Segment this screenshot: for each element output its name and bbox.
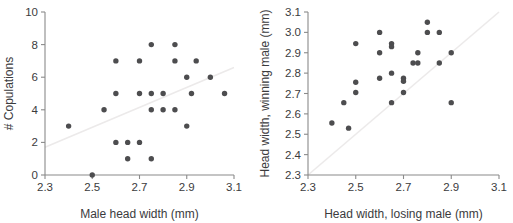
trend-line [45,67,234,147]
x-tick-label: 2.9 [179,181,195,193]
x-tick-label: 2.3 [300,181,316,193]
data-point [101,107,106,112]
data-point [113,140,118,145]
data-point [401,90,406,95]
y-tick-label: 2.7 [285,88,301,100]
data-point [353,41,358,46]
data-point [149,156,154,161]
data-point [449,100,454,105]
data-point [346,125,351,130]
data-point [208,75,213,80]
data-point [415,50,420,55]
data-point [90,172,95,177]
data-point [113,58,118,63]
x-tick-label: 2.7 [396,181,412,193]
y-tick-label: 6 [32,71,38,83]
data-point [184,75,189,80]
x-axis-title: Male head width (mm) [80,207,199,221]
data-point [149,42,154,47]
data-point [377,30,382,35]
data-point [377,76,382,81]
data-point [194,58,199,63]
x-tick-label: 3.1 [226,181,242,193]
panel-copulations-vs-head-width: 2.32.52.72.93.10246810Male head width (m… [0,0,256,223]
data-point [401,79,406,84]
data-point [389,44,394,49]
x-axis-title: Head width, losing male (mm) [324,207,483,221]
data-point [410,60,415,65]
data-point [222,91,227,96]
data-point [125,140,130,145]
data-point [160,91,165,96]
x-tick-label: 2.7 [132,181,148,193]
x-tick-label: 2.5 [84,181,100,193]
x-tick-label: 2.3 [37,181,53,193]
data-point [66,123,71,128]
data-point [189,91,194,96]
data-point [389,100,394,105]
y-axis-title: Head width, winning male (mm) [258,9,272,177]
panel-winner-vs-loser-head-width: 2.32.52.72.93.12.32.42.52.62.72.82.93.03… [256,0,513,223]
data-point [437,30,442,35]
data-point [113,91,118,96]
data-point [125,156,130,161]
right-plot-canvas: 2.32.52.72.93.12.32.42.52.62.72.82.93.03… [256,0,513,223]
data-point [137,140,142,145]
data-point [149,91,154,96]
data-point [341,100,346,105]
y-tick-label: 2.8 [285,67,301,79]
data-point [425,19,430,24]
x-tick-label: 2.5 [348,181,364,193]
data-point [137,58,142,63]
data-point [172,107,177,112]
y-tick-label: 2 [32,136,38,148]
data-point [389,70,394,75]
left-plot-canvas: 2.32.52.72.93.10246810Male head width (m… [0,0,256,223]
y-tick-label: 2.4 [285,149,302,161]
scatter-figure: 2.32.52.72.93.10246810Male head width (m… [0,0,513,223]
y-tick-label: 0 [32,169,38,181]
y-tick-label: 2.9 [285,47,301,59]
data-point [172,58,177,63]
data-point [184,123,189,128]
y-tick-label: 2.5 [285,128,301,140]
x-tick-label: 2.9 [443,181,459,193]
data-point [353,80,358,85]
y-tick-label: 3.0 [285,26,301,38]
data-point [415,60,420,65]
y-tick-label: 3.1 [285,6,301,18]
data-point [437,60,442,65]
data-point [160,107,165,112]
data-point [449,50,454,55]
data-point [149,107,154,112]
data-point [329,120,334,125]
y-tick-label: 8 [32,39,38,51]
y-tick-label: 10 [25,6,38,18]
y-axis-title: # Copulations [2,57,16,130]
data-point [377,50,382,55]
y-tick-label: 2.6 [285,108,301,120]
data-point [137,91,142,96]
y-tick-label: 2.3 [285,169,301,181]
data-point [353,90,358,95]
data-point [425,30,430,35]
y-tick-label: 4 [32,104,39,116]
x-tick-label: 3.1 [491,181,507,193]
data-point [172,42,177,47]
